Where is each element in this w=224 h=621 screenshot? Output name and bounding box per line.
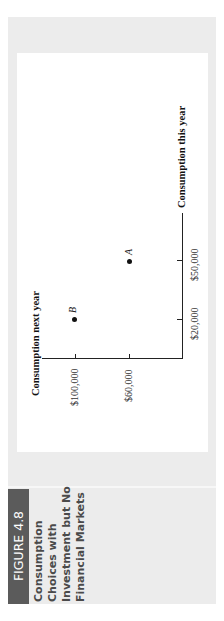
point-b: [72, 317, 77, 322]
x-tick-label-20000: $20,000: [189, 308, 201, 341]
x-tick-20000: [177, 319, 182, 320]
caption-line-1: Consumption: [32, 520, 46, 602]
caption-divider: [8, 486, 216, 488]
point-a-label: A: [123, 249, 135, 255]
y-axis-title: Consumption next year: [30, 291, 42, 396]
y-tick-label-60000: $60,000: [123, 370, 135, 403]
x-axis-line: [182, 213, 183, 359]
caption-line-4: Financial Markets: [74, 492, 88, 602]
point-b-label: B: [67, 307, 79, 313]
x-tick-50000: [177, 260, 182, 261]
caption-line-2: Choices with: [46, 523, 60, 602]
y-tick-100000: [75, 354, 76, 359]
x-tick-label-50000: $50,000: [189, 249, 201, 282]
y-axis-line: [42, 358, 183, 359]
y-tick-60000: [129, 354, 130, 359]
point-a: [127, 259, 132, 264]
figure-number: FIGURE 4.8: [8, 489, 29, 603]
caption-line-3: Investment but No: [60, 486, 74, 602]
y-tick-label-100000: $100,000: [69, 369, 81, 407]
x-axis-title: Consumption this year: [176, 106, 188, 208]
